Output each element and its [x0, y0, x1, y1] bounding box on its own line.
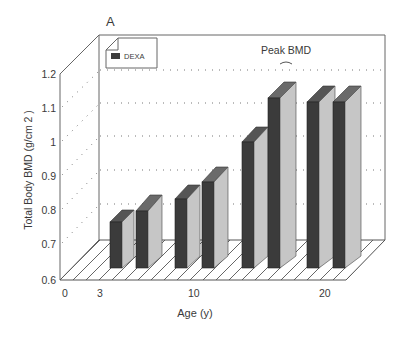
y-tick: 0.7: [41, 238, 56, 250]
x-tick: 3: [97, 287, 103, 299]
x-axis: 0 3 10 20: [62, 287, 331, 299]
chart-canvas: A: [0, 0, 395, 337]
legend-label-dexa: DEXA: [124, 52, 144, 61]
y-tick: 1.1: [41, 102, 56, 114]
bar-dark: [110, 222, 122, 268]
y-tick: 0.8: [41, 204, 56, 216]
y-tick: 0.9: [41, 170, 56, 182]
legend: DEXA: [106, 38, 157, 68]
x-tick: 20: [319, 287, 331, 299]
peak-annotation: Peak BMD: [261, 44, 312, 64]
y-tick: 1: [50, 136, 56, 148]
side-wall: [60, 35, 99, 280]
peak-bmd-label: Peak BMD: [261, 44, 312, 56]
peak-brace-icon: [280, 62, 292, 64]
bar-pair-1: [110, 195, 162, 268]
bar-pair-3: [242, 82, 296, 268]
y-axis-label: Total Body BMD (g/cm 2 ): [22, 110, 34, 230]
x-tick: 10: [188, 287, 200, 299]
y-tick: 0.6: [41, 274, 56, 286]
x-axis-label: Age (y): [177, 307, 212, 319]
legend-swatch-dexa: [111, 53, 120, 59]
bar-pair-4: [307, 86, 361, 268]
x-tick: 0: [62, 287, 68, 299]
y-tick: 1.2: [41, 68, 56, 80]
panel-label: A: [106, 14, 115, 29]
side-gridlines: [62, 72, 98, 243]
y-axis: 1.2 1.1 1 0.9 0.8 0.7 0.6: [41, 68, 56, 286]
